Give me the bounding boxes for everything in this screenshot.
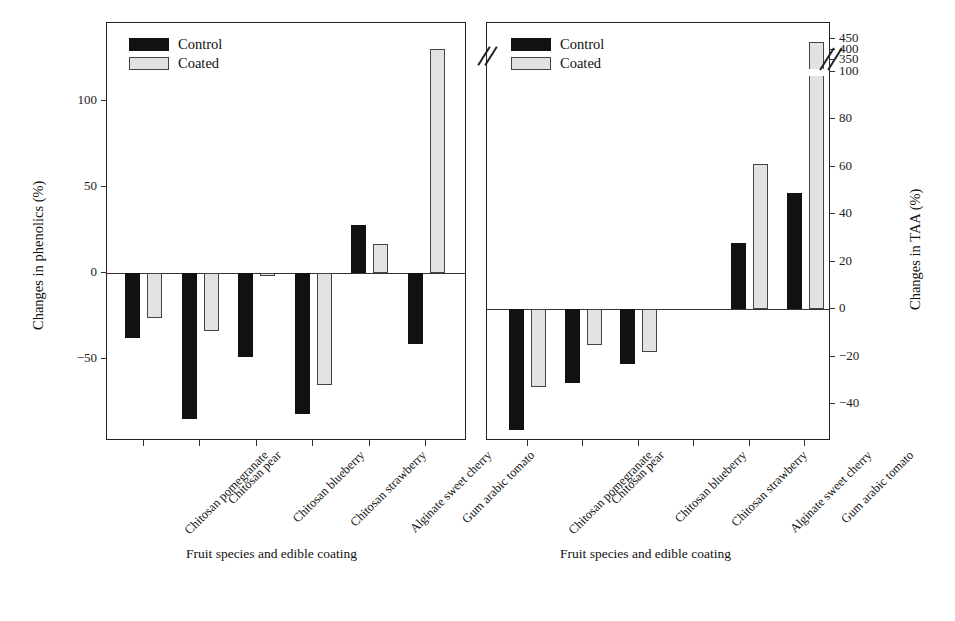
right-plot-area: Control Coated (486, 22, 830, 440)
x-tick (582, 440, 583, 446)
bar-group (787, 23, 824, 439)
y-tick-label: 20 (839, 254, 852, 267)
left-plot-area: Control Coated (106, 22, 466, 440)
bar-control (565, 309, 580, 383)
x-tick (804, 440, 805, 446)
left-bar-group (107, 23, 465, 439)
panel-taa: Control Coated 450400350100806040200−20−… (477, 0, 955, 621)
bar-control (125, 273, 140, 338)
bar-group (731, 23, 768, 439)
bar-control (509, 309, 524, 430)
bar-control (351, 225, 366, 273)
legend-swatch-control (129, 38, 169, 51)
bar-coated (204, 273, 219, 331)
bar-coated (373, 244, 388, 273)
legend-label-control: Control (560, 37, 604, 52)
bar-coated (317, 273, 332, 385)
y-tick-label: −50 (77, 351, 97, 364)
x-tick (143, 440, 144, 446)
right-x-axis-title: Fruit species and edible coating (560, 546, 731, 562)
bar-group (408, 23, 445, 439)
y-tick (829, 403, 835, 404)
bar-group (351, 23, 388, 439)
bar-group (509, 23, 546, 439)
x-tick (256, 440, 257, 446)
y-tick (101, 186, 107, 187)
bar-coated (587, 309, 602, 345)
legend-label-coated: Coated (178, 56, 219, 71)
bar-group (125, 23, 162, 439)
x-tick (693, 440, 694, 446)
x-tick (749, 440, 750, 446)
right-bar-group (487, 23, 829, 439)
bar-group (182, 23, 219, 439)
bar-control (787, 193, 802, 309)
legend-item-control: Control (511, 37, 604, 52)
y-tick-label: 80 (839, 111, 852, 124)
bar-control (408, 273, 423, 344)
x-tick (425, 440, 426, 446)
legend-item-coated: Coated (511, 56, 604, 71)
x-tick (638, 440, 639, 446)
y-tick (829, 38, 835, 39)
bar-coated (809, 76, 824, 309)
x-tick (312, 440, 313, 446)
bar-coated (531, 309, 546, 387)
category-label: Chitosan pomegranate (181, 448, 271, 538)
y-tick (101, 358, 107, 359)
bar-coated (260, 273, 275, 276)
y-tick-label: 100 (78, 93, 98, 106)
bar-coated (642, 309, 657, 352)
bar-control (182, 273, 197, 419)
legend-swatch-coated (511, 57, 551, 70)
left-x-axis-title: Fruit species and edible coating (186, 546, 357, 562)
bar-control (620, 309, 635, 364)
y-tick-label: 50 (84, 179, 97, 192)
right-legend: Control Coated (511, 37, 604, 75)
y-tick (829, 71, 835, 72)
legend-swatch-control (511, 38, 551, 51)
y-tick (829, 261, 835, 262)
legend-label-control: Control (178, 37, 222, 52)
y-tick-label: −20 (839, 349, 859, 362)
y-tick (829, 213, 835, 214)
y-tick-label: 0 (91, 265, 98, 278)
y-tick-label: −40 (839, 396, 859, 409)
bar-coated (753, 164, 768, 309)
bar-coated (147, 273, 162, 318)
left-y-axis-title: Changes in phenolics (%) (30, 181, 47, 330)
bar-group (295, 23, 332, 439)
right-y-axis-title: Changes in TAA (%) (907, 189, 924, 310)
bar-control (295, 273, 310, 414)
bar-group (676, 23, 713, 439)
legend-label-coated: Coated (560, 56, 601, 71)
y-tick-label: 100 (839, 64, 859, 77)
category-label: Gum arabic tomato (838, 448, 917, 527)
legend-item-coated: Coated (129, 56, 222, 71)
bar-group (620, 23, 657, 439)
bar-coated (430, 49, 445, 273)
x-tick (369, 440, 370, 446)
y-tick-label: 40 (839, 206, 852, 219)
panel-phenolics: Changes in phenolics (%) Control Coated … (0, 0, 478, 621)
y-tick (101, 100, 107, 101)
y-tick (101, 272, 107, 273)
y-tick (829, 118, 835, 119)
y-tick (829, 166, 835, 167)
y-tick (829, 356, 835, 357)
bar-group (238, 23, 275, 439)
x-tick (199, 440, 200, 446)
x-tick (527, 440, 528, 446)
legend-swatch-coated (129, 57, 169, 70)
y-tick-label: 0 (839, 301, 846, 314)
legend-item-control: Control (129, 37, 222, 52)
y-tick-label: 60 (839, 159, 852, 172)
left-legend: Control Coated (129, 37, 222, 75)
bar-group (565, 23, 602, 439)
bar-control (238, 273, 253, 357)
bar-control (731, 243, 746, 310)
y-tick (829, 308, 835, 309)
figure-root: Changes in phenolics (%) Control Coated … (0, 0, 955, 621)
